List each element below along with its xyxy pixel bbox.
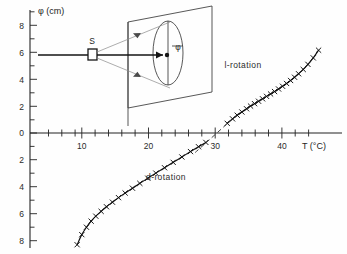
data-point: [311, 55, 316, 60]
y-tick-label-neg8: 8: [19, 236, 24, 246]
data-point: [179, 154, 184, 159]
source-box: [88, 49, 97, 60]
axes-group: [30, 10, 342, 248]
y-tick-label-0: 0: [19, 128, 24, 138]
series-d-rotation: [75, 140, 209, 248]
data-point: [203, 140, 208, 145]
data-point: [316, 48, 321, 53]
data-point: [188, 149, 193, 154]
data-point: [305, 62, 310, 67]
data-point: [196, 144, 201, 149]
x-tick-label-20: 20: [144, 141, 154, 151]
data-point: [239, 109, 244, 114]
diverging-ray-lower-arrowhead: [133, 72, 141, 77]
data-point: [104, 204, 109, 209]
data-point: [137, 181, 142, 186]
y-tick-label-6: 6: [19, 48, 24, 58]
y-major-ticks: [30, 25, 37, 240]
data-point: [123, 190, 128, 195]
diverging-ray-upper-arrowhead: [133, 33, 141, 38]
data-point: [79, 232, 84, 237]
x-axis-label: T (°C): [302, 141, 326, 151]
data-point: [162, 165, 167, 170]
diverging-ray-lower: [97, 58, 170, 88]
chart-canvas: 8 6 4 2 0 2 4 6 8 φ (cm): [0, 0, 347, 254]
figure-root: 8 6 4 2 0 2 4 6 8 φ (cm): [0, 0, 347, 254]
x-tick-label-10: 10: [77, 141, 87, 151]
data-point: [99, 209, 104, 214]
data-point: [116, 195, 121, 200]
y-tick-label-neg6: 6: [19, 209, 24, 219]
y-tick-label-8: 8: [19, 21, 24, 31]
data-point: [288, 78, 293, 83]
beam-spot: [165, 53, 169, 57]
source-label: S: [89, 36, 95, 46]
x-tick-labels: 10 20 30 40: [77, 141, 287, 151]
series-line-d-rotation: [77, 142, 206, 244]
y-tick-labels: 8 6 4 2 0 2 4 6 8: [19, 21, 24, 246]
main-beam-arrowhead: [156, 52, 163, 59]
data-point: [301, 67, 306, 72]
data-point: [84, 225, 89, 230]
y-tick-label-neg2: 2: [19, 155, 24, 165]
data-point: [75, 242, 80, 247]
x-tick-label-30: 30: [210, 141, 220, 151]
phi-angle-label: φ: [175, 42, 181, 52]
x-tick-label-40: 40: [277, 141, 287, 151]
data-point: [89, 219, 94, 224]
inset-polarimeter-schematic: S φ: [38, 6, 212, 126]
data-point: [130, 186, 135, 191]
y-tick-label-neg4: 4: [19, 182, 24, 192]
data-point: [110, 200, 115, 205]
data-point: [93, 214, 98, 219]
y-tick-label-2: 2: [19, 102, 24, 112]
diverging-ray-upper: [97, 22, 170, 52]
data-point: [171, 160, 176, 165]
y-tick-label-4: 4: [19, 75, 24, 85]
data-point: [296, 71, 301, 76]
y-axis-label: φ (cm): [38, 6, 64, 16]
d-rotation-label: d-rotation: [146, 172, 186, 182]
l-rotation-label: l-rotation: [224, 60, 261, 70]
y-minor-ticks: [30, 12, 35, 227]
